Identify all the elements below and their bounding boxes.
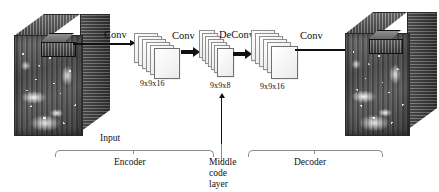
label-dims-encoder-1: 9x9x16 xyxy=(140,80,165,89)
feature-map-stack-decoder-1 xyxy=(251,30,299,80)
brace-decoder-tick xyxy=(314,150,315,154)
brace-decoder xyxy=(248,150,383,157)
input-data-cube xyxy=(14,14,110,134)
label-conv-2: Conv xyxy=(172,30,195,42)
label-dims-middle-code: 9x9x8 xyxy=(210,82,231,91)
output-data-cube xyxy=(345,12,437,134)
label-deconv: DeConv xyxy=(219,29,254,41)
input-cube-sample-patch xyxy=(41,42,76,57)
label-decoder: Decoder xyxy=(294,157,326,167)
label-middle-code-layer-line2: layer xyxy=(209,179,228,189)
brace-encoder xyxy=(55,150,214,157)
label-input: Input xyxy=(100,133,120,143)
feature-map-card-front xyxy=(154,48,180,79)
output-cube-side-face xyxy=(407,12,439,132)
middle-code-pointer-line xyxy=(221,98,222,144)
label-dims-decoder-1: 9x9x16 xyxy=(260,83,285,92)
label-conv-1: Conv xyxy=(104,29,127,41)
label-middle-code-layer: Middle code layer xyxy=(209,157,255,190)
label-conv-3: Conv xyxy=(300,30,323,42)
arrow-input-to-conv1 xyxy=(73,43,131,45)
diagram-canvas: Conv 9x9x16 Conv 9x9x8 DeConv 9x9x16 Co xyxy=(0,0,439,192)
output-cube-sample-patch xyxy=(369,39,403,54)
label-middle-code-layer-line1: Middle code xyxy=(209,157,236,178)
middle-code-pointer-head xyxy=(219,93,225,98)
brace-encoder-tick xyxy=(133,150,134,154)
feature-map-card-front xyxy=(217,48,234,77)
feature-map-card-front xyxy=(271,46,298,79)
label-encoder: Encoder xyxy=(114,157,146,167)
